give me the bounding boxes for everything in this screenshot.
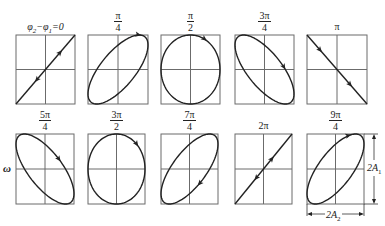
lissajous-panel <box>88 134 145 204</box>
phase-fraction: 3π4 <box>258 10 270 33</box>
dimension-2a1-text: 2A <box>367 162 378 173</box>
phase-difference-label: φ2−φ1=0 <box>27 21 64 32</box>
phase-fraction: 3π2 <box>110 109 122 132</box>
phase-label: 7π4 <box>175 109 205 132</box>
phase-label: π <box>297 22 377 32</box>
arrowhead-right-icon <box>359 212 364 216</box>
lissajous-panel <box>16 134 74 204</box>
phase-fraction: π4 <box>114 10 121 33</box>
fraction-numerator: 5π <box>39 109 51 121</box>
fraction-numerator: π <box>114 10 121 22</box>
fraction-numerator: 3π <box>110 109 122 121</box>
dimension-2a2-label: 2A2 <box>325 209 342 223</box>
lissajous-panel <box>307 35 367 104</box>
phase-fraction: 5π4 <box>39 109 51 132</box>
fraction-numerator: 3π <box>258 10 270 22</box>
fraction-denominator: 2 <box>114 121 119 132</box>
fraction-denominator: 4 <box>262 22 267 33</box>
lissajous-panel <box>235 35 294 104</box>
lissajous-panel <box>88 32 148 104</box>
fraction-denominator: 2 <box>188 22 193 33</box>
fraction-numerator: 7π <box>183 109 195 121</box>
phase-label: 2π <box>224 121 304 131</box>
phase-label: 9π4 <box>321 109 351 132</box>
lissajous-panel <box>161 134 218 204</box>
phase-label: 3π4 <box>250 10 280 33</box>
fraction-denominator: 4 <box>187 121 192 132</box>
phase-label: φ2−φ1=0 <box>6 22 86 35</box>
lissajous-panel <box>307 132 364 204</box>
phase-label: 5π4 <box>30 109 60 132</box>
phase-fraction: π2 <box>187 10 194 33</box>
fraction-numerator: 9π <box>329 109 341 121</box>
fraction-denominator: 4 <box>333 121 338 132</box>
arrowhead-down-icon <box>372 199 376 204</box>
fraction-denominator: 4 <box>43 121 48 132</box>
dimension-2a2-text: 2A <box>326 209 337 220</box>
arrowhead-up-icon <box>372 134 376 139</box>
dimension-2a2-sub: 2 <box>337 215 341 223</box>
fraction-denominator: 4 <box>116 22 121 33</box>
dimension-2a1-label: 2A1 <box>367 162 382 176</box>
fraction-numerator: π <box>187 10 194 22</box>
omega-label: ω <box>3 162 11 174</box>
lissajous-panel <box>235 134 292 204</box>
phase-fraction: 9π4 <box>329 109 341 132</box>
lissajous-panel <box>16 35 75 104</box>
phase-label: π4 <box>103 10 133 33</box>
phase-label: π2 <box>176 10 206 33</box>
dimension-2a1-sub: 1 <box>378 168 382 176</box>
arrowhead-left-icon <box>307 212 312 216</box>
lissajous-panel <box>161 35 220 104</box>
phase-label: 3π2 <box>102 109 132 132</box>
phase-fraction: 7π4 <box>183 109 195 132</box>
